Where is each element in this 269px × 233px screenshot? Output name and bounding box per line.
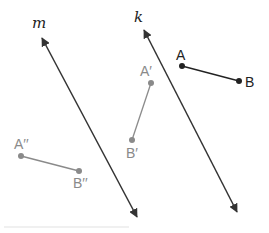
reflection-diagram: m k A B A′ B′ A′′ B′′ bbox=[0, 0, 269, 233]
segment-ab: A B bbox=[176, 47, 254, 90]
point-a-label: A bbox=[176, 47, 186, 63]
diagram-canvas: m k A B A′ B′ A′′ B′′ bbox=[0, 0, 269, 233]
point-b-label: B bbox=[245, 74, 254, 90]
line-k-label: k bbox=[134, 8, 143, 26]
point-a-double-prime-label: A′′ bbox=[14, 136, 29, 152]
point-b-prime bbox=[129, 137, 135, 143]
segment-a-double-prime-b-double-prime: A′′ B′′ bbox=[14, 136, 88, 191]
point-a-double-prime bbox=[18, 153, 24, 159]
point-b-double-prime-label: B′′ bbox=[73, 175, 88, 191]
point-a-prime bbox=[148, 80, 154, 86]
point-b-prime-label: B′ bbox=[126, 145, 138, 161]
line-m-label: m bbox=[32, 14, 46, 32]
point-a-prime-label: A′ bbox=[140, 63, 152, 79]
point-a bbox=[179, 63, 185, 69]
bottom-divider bbox=[4, 226, 129, 228]
point-b bbox=[236, 78, 242, 84]
line-k: k bbox=[134, 8, 237, 212]
point-b-double-prime bbox=[76, 168, 82, 174]
segment-a-prime-b-prime: A′ B′ bbox=[126, 63, 154, 161]
